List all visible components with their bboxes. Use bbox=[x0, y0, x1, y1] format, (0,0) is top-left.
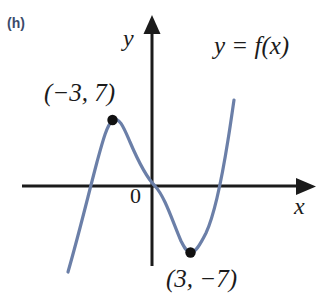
part-label: (h) bbox=[7, 16, 25, 30]
x-axis-label: x bbox=[294, 194, 305, 218]
local-minimum-point bbox=[185, 247, 195, 257]
y-axis-label: y bbox=[123, 26, 134, 50]
function-equation-label: y = f(x) bbox=[214, 33, 289, 58]
local-minimum-label: (3, −7) bbox=[166, 266, 237, 291]
origin-label: 0 bbox=[130, 185, 141, 207]
local-maximum-point bbox=[107, 115, 117, 125]
local-maximum-label: (−3, 7) bbox=[44, 80, 115, 105]
graph-figure: (h) y = f(x) y x 0 (−3, 7) (3, −7) bbox=[0, 0, 320, 306]
y-axis-arrow-icon bbox=[144, 15, 161, 34]
